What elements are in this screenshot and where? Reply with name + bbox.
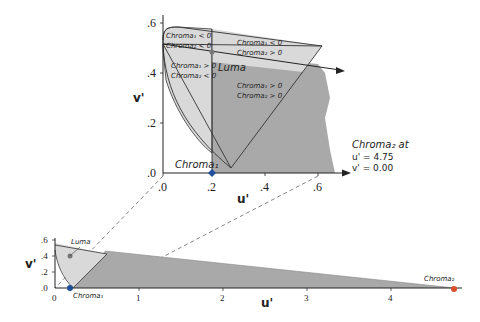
bottom-y-tick: .6 (41, 235, 48, 245)
top-y-tick: .0 (147, 166, 156, 180)
bottom-x-axis-label: u' (261, 296, 273, 310)
bottom-y-tick: .2 (41, 267, 48, 277)
region-label: Chroma₁ < 0 (237, 39, 283, 47)
bottom-y-tick: .4 (41, 251, 48, 261)
chroma1-point (67, 285, 73, 291)
chroma2-label: Chroma₂ (424, 275, 455, 283)
region-label: Chroma₁ < 0 (166, 32, 212, 40)
diagram-canvas: .6 .4 .2 .0 .0 .2 .4 .6 v' u' Chroma₁ < … (0, 0, 480, 322)
chroma2-note-title: Chroma₂ at (352, 139, 410, 150)
bottom-x-tick: 4 (388, 293, 393, 303)
top-y-axis-label: v' (133, 91, 145, 105)
x-axis-arrow-icon (342, 170, 351, 177)
chroma2-point (451, 286, 457, 292)
luma-arrow-icon (336, 67, 345, 74)
region-label: Chroma₂ < 0 (166, 42, 212, 50)
chroma2-note-u: u' = 4.75 (352, 152, 393, 162)
luma-point (210, 50, 215, 55)
bottom-chart: .6 .4 .2 .0 0 1 2 3 4 v' u' Luma Chroma₁… (25, 235, 462, 310)
top-x-tick: .2 (207, 180, 216, 194)
dark-region (73, 251, 455, 288)
chroma1-label: Chroma₁ (175, 159, 218, 170)
region-label: Chroma₂ > 0 (237, 92, 283, 100)
luma-label: Luma (71, 238, 90, 246)
bottom-x-tick: 0 (52, 293, 57, 303)
top-x-axis-label: u' (237, 192, 249, 206)
bottom-y-tick: .0 (41, 283, 48, 293)
top-y-tick: .6 (147, 16, 156, 30)
region-label: Chroma₂ < 0 (171, 72, 217, 80)
bottom-x-tick: 1 (136, 293, 141, 303)
top-y-tick: .4 (147, 66, 156, 80)
region-label: Chroma₂ > 0 (237, 49, 283, 57)
region-label: Chroma₁ > 0 (237, 82, 283, 90)
region-label: Chroma₁ > 0 (171, 62, 217, 70)
bottom-x-tick: 3 (304, 293, 309, 303)
chroma1-label: Chroma₁ (73, 292, 104, 300)
top-y-tick: .2 (147, 116, 156, 130)
top-chart: .6 .4 .2 .0 .0 .2 .4 .6 v' u' Chroma₁ < … (133, 15, 410, 206)
top-x-tick: .0 (158, 180, 167, 194)
luma-label: Luma (218, 62, 246, 73)
chroma2-note-v: v' = 0.00 (352, 163, 393, 173)
bottom-y-axis-label: v' (25, 257, 37, 271)
top-x-tick: .4 (260, 180, 269, 194)
bottom-x-tick: 2 (220, 293, 225, 303)
top-x-tick: .6 (313, 180, 322, 194)
